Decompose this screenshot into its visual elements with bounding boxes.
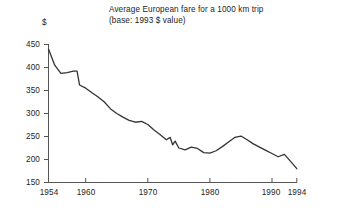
x-tick-label-1980: 1980 bbox=[195, 188, 225, 197]
y-tick-label-350: 350 bbox=[16, 86, 40, 95]
fare-line-series bbox=[49, 49, 297, 169]
x-tick-label-1970: 1970 bbox=[133, 188, 163, 197]
plot-area bbox=[0, 0, 348, 213]
x-tick-label-1954: 1954 bbox=[34, 188, 64, 197]
x-axis-ticks bbox=[49, 178, 297, 183]
y-tick-label-250: 250 bbox=[16, 132, 40, 141]
y-tick-label-450: 450 bbox=[16, 40, 40, 49]
y-tick-label-200: 200 bbox=[16, 155, 40, 164]
y-tick-label-150: 150 bbox=[16, 178, 40, 187]
y-tick-label-300: 300 bbox=[16, 109, 40, 118]
y-tick-label-400: 400 bbox=[16, 63, 40, 72]
axis-lines bbox=[49, 44, 298, 183]
x-tick-label-1960: 1960 bbox=[71, 188, 101, 197]
y-axis-ticks bbox=[44, 45, 49, 183]
x-tick-label-1994: 1994 bbox=[282, 188, 312, 197]
chart-container: Average European fare for a 1000 km trip… bbox=[0, 0, 348, 213]
